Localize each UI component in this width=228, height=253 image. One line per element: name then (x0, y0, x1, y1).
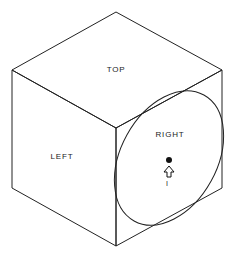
center-dot (166, 157, 172, 163)
arrow-up-icon (164, 166, 174, 177)
cube-diagram: TOP LEFT RIGHT I (0, 0, 228, 253)
right-label: RIGHT (156, 130, 185, 139)
left-label: LEFT (51, 152, 74, 161)
inscribed-ellipse (92, 72, 228, 244)
top-label: TOP (107, 65, 126, 74)
marker-label: I (166, 180, 169, 187)
